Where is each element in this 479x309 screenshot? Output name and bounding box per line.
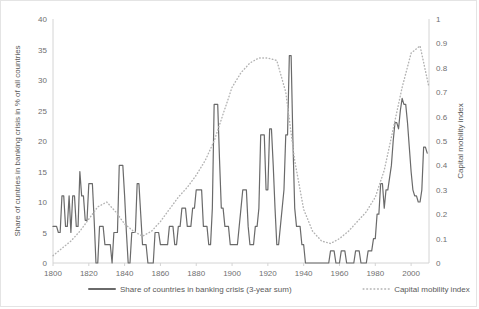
- secondary-y-axis-tick-label: 0.2: [436, 210, 448, 219]
- y-axis-tick-labels: 0510152025303540: [38, 15, 47, 268]
- axis-lines: [53, 19, 429, 266]
- y-axis-tick-label: 10: [38, 198, 47, 207]
- x-axis-tick-label: 1840: [116, 269, 134, 278]
- x-axis-tick-label: 1900: [223, 269, 241, 278]
- chart-legend: Share of countries in banking crisis (3-…: [89, 285, 470, 294]
- x-axis-tick-label: 1940: [295, 269, 313, 278]
- secondary-y-axis-tick-label: 0.6: [436, 113, 448, 122]
- legend-label-1: Capital mobility index: [394, 285, 470, 294]
- secondary-y-axis-tick-label: 0.3: [436, 186, 448, 195]
- legend-item-1: Capital mobility index: [363, 285, 470, 294]
- secondary-y-axis-tick-label: 0.5: [436, 137, 448, 146]
- x-axis-tick-label: 1980: [366, 269, 384, 278]
- y-axis-title-group: Share of cuntries in banking crisis in %…: [13, 45, 22, 236]
- x-axis-tick-label: 1860: [152, 269, 170, 278]
- y-axis-tick-label: 0: [43, 259, 48, 268]
- legend-item-0: Share of countries in banking crisis (3-…: [89, 285, 292, 294]
- y-axis-tick-label: 30: [38, 76, 47, 85]
- secondary-y-axis-title: Capital mobility index: [456, 103, 465, 179]
- secondary-y-axis-tick-label: 1: [436, 15, 441, 24]
- legend-label-0: Share of countries in banking crisis (3-…: [120, 285, 292, 294]
- y-axis-tick-label: 5: [43, 229, 48, 238]
- secondary-y-axis-tick-label: 0.8: [436, 64, 448, 73]
- series-line-0: [53, 56, 427, 263]
- x-axis-tick-label: 1920: [259, 269, 277, 278]
- x-axis-tick-label: 2000: [402, 269, 420, 278]
- y-axis-tick-label: 35: [38, 46, 47, 55]
- secondary-y-axis-tick-label: 0.9: [436, 39, 448, 48]
- x-axis-tick-label: 1820: [80, 269, 98, 278]
- chart-plot: 0510152025303540 00.10.20.30.40.50.60.70…: [1, 1, 478, 308]
- series-line-1: [53, 46, 429, 256]
- secondary-y-axis-tick-label: 0: [436, 259, 441, 268]
- chart-container: 0510152025303540 00.10.20.30.40.50.60.70…: [0, 0, 477, 307]
- secondary-y-axis-title-group: Capital mobility index: [456, 103, 465, 179]
- y-axis-tick-label: 15: [38, 168, 47, 177]
- x-axis-tick-label: 1880: [187, 269, 205, 278]
- secondary-y-axis-tick-labels: 00.10.20.30.40.50.60.70.80.91: [436, 15, 448, 268]
- y-axis-tick-label: 20: [38, 137, 47, 146]
- y-axis-tick-label: 40: [38, 15, 47, 24]
- x-axis-tick-label: 1960: [331, 269, 349, 278]
- y-axis-tick-label: 25: [38, 107, 47, 116]
- secondary-y-axis-tick-label: 0.1: [436, 235, 448, 244]
- data-series-group: [53, 46, 429, 263]
- x-axis-tick-labels: 1800182018401860188019001920194019601980…: [44, 269, 420, 278]
- secondary-y-axis-tick-label: 0.4: [436, 161, 448, 170]
- y-axis-title: Share of cuntries in banking crisis in %…: [13, 45, 22, 236]
- secondary-y-axis-tick-label: 0.7: [436, 88, 448, 97]
- x-axis-tick-label: 1800: [44, 269, 62, 278]
